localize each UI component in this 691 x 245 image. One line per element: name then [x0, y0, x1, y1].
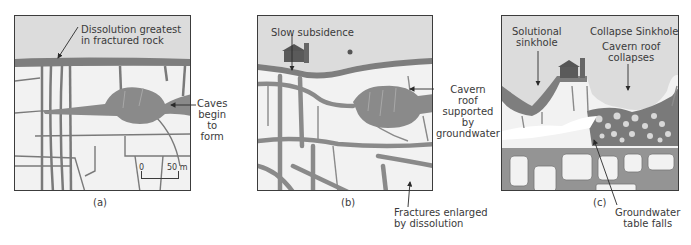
caption-b: (b)	[341, 197, 355, 208]
label-slow-subsidence: Slow subsidence	[271, 27, 354, 38]
label-caves-begin-to-form: Caves begin to form	[197, 98, 227, 142]
scale-bar-start: 0	[139, 162, 144, 173]
panel-a-caves-begin: Dissolution greatest in fractured rock 0…	[14, 15, 191, 191]
label-cavern-roof-supported: Cavern roof supported by groundwater	[436, 84, 500, 139]
panel-b-illustration	[258, 16, 433, 191]
silo-icon	[580, 58, 585, 78]
label-solutional-sinkhole: Solutional sinkhole	[512, 26, 562, 48]
house-icon	[560, 66, 578, 78]
silo-icon	[304, 43, 309, 63]
panel-b-slow-subsidence: Slow subsidence	[257, 15, 433, 191]
label-collapse-sinkhole: Collapse Sinkhole	[590, 26, 678, 37]
label-fractures-enlarged: Fractures enlarged by dissolution	[394, 207, 488, 229]
caption-c: (c)	[593, 197, 606, 208]
label-cavern-roof-collapses: Cavern roof collapses	[602, 41, 660, 63]
scale-bar-end: 50 m	[167, 162, 188, 173]
panel-c-collapse-sinkhole: Solutional sinkhole Collapse Sinkhole Ca…	[501, 15, 679, 191]
house-icon	[284, 50, 304, 62]
caption-a: (a)	[93, 197, 107, 208]
label-dissolution-greatest: Dissolution greatest in fractured rock	[81, 24, 181, 46]
tree-icon	[348, 50, 353, 55]
label-groundwater-table-falls: Groundwater table falls	[615, 207, 680, 229]
